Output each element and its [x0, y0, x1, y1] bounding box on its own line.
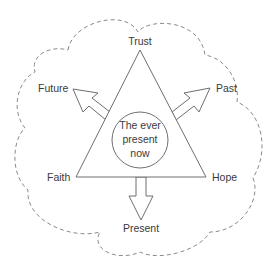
center-label-line3: now	[130, 147, 150, 159]
label-trust: Trust	[128, 35, 152, 47]
label-future: Future	[38, 82, 69, 94]
label-present: Present	[123, 222, 159, 234]
center-label-line2: present	[122, 133, 157, 145]
center-label-line1: The ever	[119, 119, 161, 131]
concept-diagram: The ever present now Trust Future Past F…	[0, 0, 280, 270]
arrow-past	[172, 88, 210, 120]
arrow-present	[129, 177, 153, 220]
label-faith: Faith	[47, 171, 71, 183]
arrow-future	[73, 89, 110, 120]
label-hope: Hope	[212, 171, 237, 183]
label-past: Past	[216, 82, 237, 94]
